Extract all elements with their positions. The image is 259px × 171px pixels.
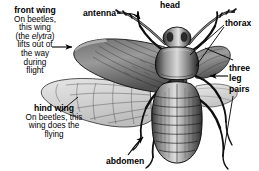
label-hind-wing-line3: flying: [44, 130, 63, 139]
label-three-leg-pairs: three leg pairs: [229, 63, 259, 94]
label-legs-line1: three: [229, 63, 250, 73]
label-front-wing-line7: flight: [26, 66, 43, 75]
thorax: [155, 47, 198, 80]
leg-right-front: [190, 12, 217, 52]
label-legs-line3: pairs: [229, 84, 250, 94]
label-legs-line2: leg: [229, 73, 241, 83]
label-front-wing: front wing On beetles, this wing (the el…: [2, 6, 68, 76]
label-thorax: thorax: [225, 19, 251, 28]
abdomen: [152, 82, 202, 163]
label-hind-wing: hind wing On beetles, this wing does the…: [4, 104, 104, 139]
label-abdomen: abdomen: [106, 157, 144, 166]
label-head: head: [160, 1, 180, 10]
label-antenna: antenna: [83, 9, 116, 18]
abdomen-arrow: [128, 137, 143, 155]
